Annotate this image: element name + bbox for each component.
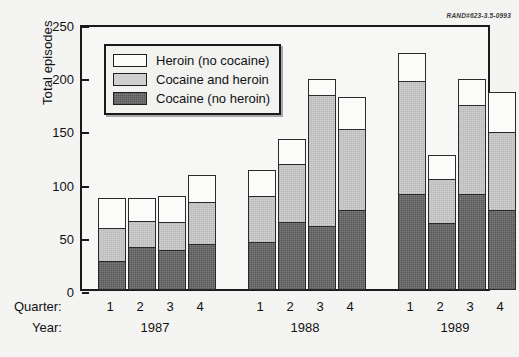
quarter-label-9: 2 [426, 299, 454, 314]
bar-segment [98, 198, 126, 229]
bar-segment [98, 228, 126, 262]
bar-segment [398, 53, 426, 83]
legend-item: Cocaine and heroin [113, 70, 270, 89]
bar-segment [158, 250, 186, 290]
bar-segment [98, 261, 126, 290]
quarter-row-label: Quarter: [14, 299, 62, 314]
legend-swatch-heroin-no-cocaine [113, 54, 147, 67]
bar-segment [488, 132, 516, 211]
legend-item: Heroin (no cocaine) [113, 51, 270, 70]
bar-segment [398, 81, 426, 195]
bar-segment [488, 210, 516, 290]
bar-segment [428, 223, 456, 290]
bar-segment [188, 175, 216, 203]
bar-segment [338, 210, 366, 290]
year-row-label: Year: [32, 320, 62, 335]
bar-segment [278, 139, 306, 166]
bar-segment [488, 92, 516, 133]
bar-segment [338, 129, 366, 211]
bar-segment [128, 247, 156, 290]
quarter-label-3: 4 [186, 299, 214, 314]
bar-segment [128, 221, 156, 249]
quarter-label-2: 3 [156, 299, 184, 314]
quarter-label-7: 4 [336, 299, 364, 314]
bar-segment [458, 79, 486, 106]
bar-segment [428, 179, 456, 224]
legend-swatch-cocaine-no-heroin [113, 92, 147, 105]
bar-segment [248, 242, 276, 290]
bar-segment [128, 198, 156, 221]
year-label-1987: 1987 [95, 320, 215, 335]
legend-swatch-cocaine-and-heroin [113, 73, 147, 86]
bar-segment [248, 170, 276, 198]
bar-segment [188, 244, 216, 290]
bar-stack [458, 79, 486, 289]
bar-segment [278, 164, 306, 223]
bar-segment [158, 196, 186, 223]
bar-segment [158, 222, 186, 251]
rand-document-id: RAND#623-3.5-0993 [447, 12, 511, 19]
quarter-label-4: 1 [246, 299, 274, 314]
bar-segment [428, 155, 456, 181]
bar-segment [188, 202, 216, 246]
bar-stack [428, 155, 456, 289]
bar-stack [248, 170, 276, 289]
legend-item: Cocaine (no heroin) [113, 89, 270, 108]
quarter-label-0: 1 [96, 299, 124, 314]
y-tick-label-50: 50 [44, 233, 74, 246]
year-label-1988: 1988 [245, 320, 365, 335]
y-tick-label-250: 250 [44, 20, 74, 33]
bar-stack [278, 139, 306, 289]
bar-stack [398, 53, 426, 289]
plot-area: Total episodes 050100150200250 Heroin (n… [80, 25, 490, 291]
bar-stack [158, 196, 186, 289]
legend-label-heroin-no-cocaine: Heroin (no cocaine) [156, 53, 269, 68]
bar-segment [308, 95, 336, 227]
bar-stack [338, 97, 366, 289]
chart-legend: Heroin (no cocaine) Cocaine and heroin C… [104, 44, 281, 115]
quarter-label-11: 4 [486, 299, 514, 314]
legend-label-cocaine-and-heroin: Cocaine and heroin [156, 72, 269, 87]
year-label-1989: 1989 [395, 320, 515, 335]
y-tick-label-100: 100 [44, 180, 74, 193]
y-tick-mark-0 [82, 292, 89, 294]
bar-segment [308, 226, 336, 290]
bar-segment [458, 105, 486, 195]
y-axis-title: Total episodes [40, 0, 55, 105]
bar-stack [188, 175, 216, 289]
y-tick-label-200: 200 [44, 73, 74, 86]
quarter-label-6: 3 [306, 299, 334, 314]
quarter-label-8: 1 [396, 299, 424, 314]
bar-stack [128, 198, 156, 289]
y-tick-label-150: 150 [44, 126, 74, 139]
bar-stack [488, 92, 516, 289]
legend-label-cocaine-no-heroin: Cocaine (no heroin) [156, 91, 270, 106]
quarter-label-10: 3 [456, 299, 484, 314]
bar-stack [98, 198, 126, 289]
bar-segment [248, 196, 276, 243]
y-tick-label-0: 0 [44, 286, 74, 299]
bar-segment [458, 194, 486, 290]
bar-segment [338, 97, 366, 130]
figure-stacked-bar-chart: RAND#623-3.5-0993 Total episodes 0501001… [0, 0, 519, 357]
quarter-label-1: 2 [126, 299, 154, 314]
bar-segment [308, 79, 336, 96]
bar-segment [398, 194, 426, 290]
bar-stack [308, 79, 336, 289]
quarter-label-5: 2 [276, 299, 304, 314]
bar-segment [278, 222, 306, 290]
